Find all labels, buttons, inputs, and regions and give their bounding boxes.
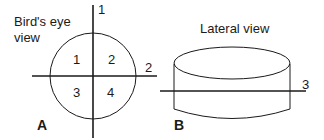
panel-b-letter: B	[174, 118, 184, 132]
axis-3-label: 3	[302, 78, 309, 92]
cylinder-bottom	[174, 109, 290, 119]
axis-2-label: 2	[145, 61, 152, 75]
birds-eye-title-line1: Bird's eye	[14, 15, 71, 29]
lateral-view-title: Lateral view	[200, 22, 269, 36]
cylinder-top	[174, 47, 290, 79]
quadrant-3-label: 3	[73, 86, 80, 100]
quadrant-2-label: 2	[108, 53, 115, 67]
axis-1-label: 1	[98, 3, 105, 17]
panel-a-letter: A	[37, 118, 47, 132]
quadrant-1-label: 1	[73, 53, 80, 67]
birds-eye-title-line2: view	[14, 31, 40, 45]
quadrant-4-label: 4	[107, 86, 114, 100]
